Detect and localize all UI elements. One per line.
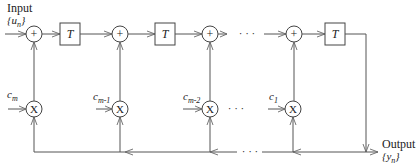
coef-1-label: cm: [7, 88, 18, 103]
input-label: Input: [7, 1, 33, 15]
multiplier-1-symbol: X: [30, 103, 38, 115]
ellipsis-middle: · · ·: [228, 102, 245, 114]
filter-diagram: Input {un} + T + T + · · · + T: [0, 0, 417, 164]
ellipsis-top: · · ·: [239, 27, 256, 39]
multiplier-3-symbol: X: [206, 103, 214, 115]
adder-2-symbol: +: [117, 27, 124, 41]
adder-4-symbol: +: [291, 27, 298, 41]
coef-3-label: cm-2: [183, 90, 200, 105]
output-signal: {yn}: [382, 150, 400, 164]
adder-1-symbol: +: [31, 27, 38, 41]
adder-3-symbol: +: [207, 27, 214, 41]
input-signal: {un}: [7, 14, 26, 29]
multiplier-4-symbol: X: [289, 103, 297, 115]
coef-2-label: cm-1: [93, 90, 110, 105]
ellipsis-bottom: · · ·: [242, 145, 259, 157]
feedback-line: [345, 34, 366, 152]
multiplier-2-symbol: X: [116, 103, 124, 115]
coef-4-label: c1: [269, 90, 278, 105]
output-label: Output: [382, 137, 416, 151]
